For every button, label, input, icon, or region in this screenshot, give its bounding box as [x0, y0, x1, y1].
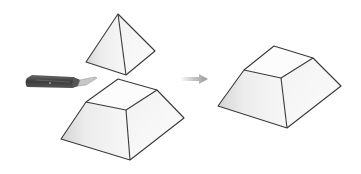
- arrow-right-icon: [180, 74, 208, 84]
- bottom-frustum: [61, 79, 184, 160]
- diagram-canvas: A pyramid is cut horizontally with a uti…: [0, 0, 361, 174]
- top-pyramid: [86, 14, 155, 75]
- result-frustum: [218, 46, 341, 128]
- cutter-knife-icon: [26, 75, 98, 88]
